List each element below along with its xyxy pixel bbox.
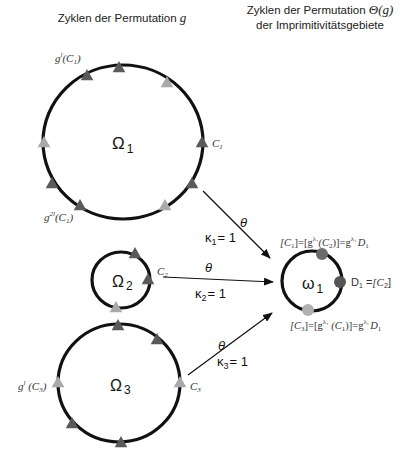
triangle-marker-icon [52,376,65,387]
right-header-line2: der Imprimitivitätsgebiete [256,19,384,31]
dot-d1 [334,276,346,288]
label-c3: C3 [190,380,201,394]
label-d1-equation: D1 =[C2] [351,276,391,289]
cycle-omega-1: Ω1 gl(C1) C1 g2l(C1) [38,51,223,225]
kappa-label: κ3= 1 [217,354,248,371]
triangle-marker-icon [38,136,51,147]
right-header-line1: Zyklen der Permutation Θ(g) [247,2,394,17]
triangle-marker-icon [142,273,155,284]
cycle-omega-3: Ω3 gl (C3) C3 [18,319,201,447]
arrow-1: θ κ1= 1 [203,191,270,258]
dot-c1 [316,248,328,260]
theta-label: θ [240,215,247,230]
arrow-3: θ κ3= 1 [188,313,272,375]
triangle-marker-icon [196,136,209,147]
cycle-label: Ω3 [110,377,131,397]
theta-label: θ [218,338,225,353]
cycle-small-omega-1: ω1 [C1]=[gλ₁(C2)]=gλ₁D1 D1 =[C2] [C3]=[g… [280,235,391,333]
arrow-line [203,191,270,258]
label-c3-equation: [C3]=[gλ₁ (C1)]=gλ₁D1 [290,318,382,333]
label-c1-equation: [C1]=[gλ₁(C2)]=gλ₁D1 [280,235,369,250]
arrow-line [163,277,273,282]
cycle-label: Ω2 [112,273,133,293]
left-header: Zyklen der Permutation g [58,10,187,25]
kappa-label: κ1= 1 [205,230,236,247]
theta-label: θ [205,260,212,275]
arrow-2: θ κ2= 1 [163,260,273,303]
cycle-label: Ω1 [112,134,134,156]
label-g-2l-c1: g2l(C1) [44,210,73,225]
permutation-diagram: Zyklen der Permutation g Zyklen der Perm… [0,0,405,454]
triangle-marker-icon [186,177,199,188]
label-g-l-c3: gl (C3) [18,379,47,394]
cycle-label: ω1 [302,275,324,296]
kappa-label: κ2= 1 [195,286,226,303]
label-g-l-c1: gl(C1) [55,51,81,66]
label-c1: C1 [212,137,223,151]
cycle-omega-2: Ω2 C2 [92,247,168,312]
triangle-marker-icon [174,376,187,387]
dot-c3 [302,304,314,316]
triangle-marker-icon [66,417,79,428]
